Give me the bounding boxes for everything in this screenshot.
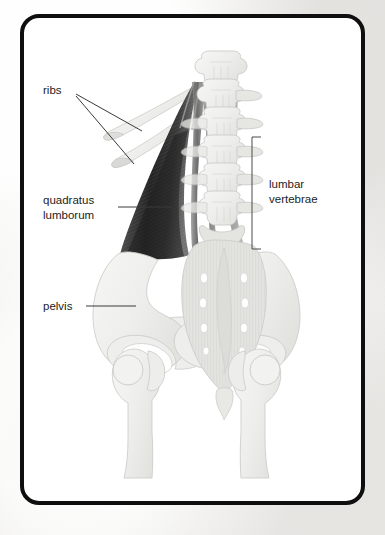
femurs-group bbox=[112, 349, 280, 478]
label-lumbar-vertebrae-line2: vertebrae bbox=[269, 193, 318, 205]
femur-left bbox=[112, 349, 164, 478]
coccyx bbox=[216, 388, 233, 420]
leader-ribs-upper bbox=[76, 94, 142, 131]
femoral-head-right bbox=[250, 355, 280, 385]
label-ribs: ribs bbox=[43, 84, 62, 96]
label-quadratus-lumborum-line1: quadratus bbox=[43, 194, 94, 206]
illustration-card: ribs quadratus lumborum lumbar vertebrae… bbox=[20, 14, 365, 505]
label-quadratus-lumborum-line2: lumborum bbox=[43, 209, 94, 221]
label-lumbar-vertebrae-line1: lumbar bbox=[269, 178, 304, 190]
femoral-head-left bbox=[113, 355, 143, 385]
anatomy-figure: ribs quadratus lumborum lumbar vertebrae… bbox=[24, 18, 365, 505]
label-pelvis: pelvis bbox=[43, 300, 73, 312]
femur-right bbox=[228, 349, 280, 478]
